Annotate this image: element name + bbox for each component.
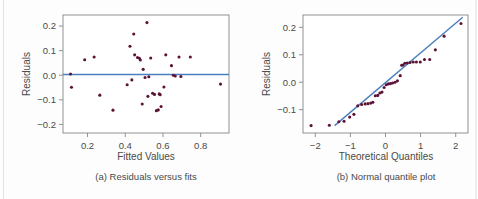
y-tick-label: −0.1	[37, 94, 56, 105]
data-point	[219, 83, 222, 86]
panel-a-x-tick-labels: 0.20.40.60.8	[81, 140, 207, 151]
data-point	[423, 58, 426, 61]
data-point	[328, 124, 331, 127]
y-tick-label: 0.0	[283, 77, 296, 88]
x-tick-label: 0.2	[81, 140, 94, 151]
data-point	[434, 48, 437, 51]
figure-container: 0.20.10.0−0.1−0.2 0.20.40.60.8 Residuals…	[0, 0, 478, 199]
panel-b-svg: 0.20.10.0−0.1 −2−1012 Residuals Theoreti…	[239, 0, 478, 199]
y-tick-label: 0.1	[283, 49, 296, 60]
panel-a-svg: 0.20.10.0−0.1−0.2 0.20.40.60.8 Residuals…	[0, 0, 239, 199]
y-tick-label: 0.2	[43, 20, 56, 31]
panel-b-frame	[303, 15, 468, 133]
panel-b-x-axis-label: Theoretical Quantiles	[339, 151, 434, 162]
panel-b-normal-quantile-plot: 0.20.10.0−0.1 −2−1012 Residuals Theoreti…	[239, 0, 478, 199]
panel-a-residuals-versus-fits: 0.20.10.0−0.1−0.2 0.20.40.60.8 Residuals…	[0, 0, 239, 199]
data-point	[153, 93, 156, 96]
panel-b-y-axis-label: Residuals	[261, 52, 272, 96]
data-point	[146, 95, 149, 98]
data-point	[70, 86, 73, 89]
data-point	[337, 120, 340, 123]
data-point	[164, 53, 167, 56]
data-point	[348, 116, 351, 119]
data-point	[366, 102, 369, 105]
panel-b-caption: (b) Normal quantile plot	[337, 171, 436, 182]
data-point	[415, 60, 418, 63]
data-point	[162, 85, 165, 88]
x-tick-label: 1	[418, 140, 423, 151]
data-point	[360, 103, 363, 106]
x-tick-label: 0.8	[194, 140, 207, 151]
x-tick-label: 2	[453, 140, 458, 151]
x-tick-label: −1	[345, 140, 356, 151]
data-point	[189, 55, 192, 58]
data-point	[177, 55, 180, 58]
data-point	[383, 86, 386, 89]
data-point	[396, 79, 399, 82]
data-point	[412, 60, 415, 63]
data-point	[310, 124, 313, 127]
data-point	[98, 94, 101, 97]
data-point	[399, 74, 402, 77]
data-point	[376, 94, 379, 97]
data-point	[406, 61, 409, 64]
panel-b-y-tick-labels: 0.20.10.0−0.1	[277, 22, 296, 115]
panel-a-caption: (a) Residuals versus fits	[95, 171, 197, 182]
data-point	[144, 76, 147, 79]
data-point	[141, 102, 144, 105]
data-point	[356, 104, 359, 107]
x-tick-label: 0.4	[119, 140, 132, 151]
panel-b-x-tick-labels: −2−1012	[310, 140, 458, 151]
data-point	[157, 108, 160, 111]
data-point	[419, 60, 422, 63]
data-point	[128, 45, 131, 48]
x-tick-label: 0.6	[156, 140, 169, 151]
y-tick-label: −0.2	[37, 119, 56, 130]
data-point	[142, 68, 145, 71]
panel-a-y-tick-labels: 0.20.10.0−0.1−0.2	[37, 20, 56, 129]
data-point	[380, 91, 383, 94]
data-point	[160, 105, 163, 108]
y-tick-label: 0.1	[43, 45, 56, 56]
y-tick-label: −0.1	[277, 104, 296, 115]
panel-a-x-axis-label: Fitted Values	[117, 151, 175, 162]
data-point	[126, 83, 129, 86]
data-point	[93, 55, 96, 58]
data-point	[371, 101, 374, 104]
y-tick-label: 0.0	[43, 70, 56, 81]
data-point	[443, 35, 446, 38]
panel-a-y-axis-label: Residuals	[21, 52, 32, 96]
data-point	[132, 32, 135, 35]
data-point	[139, 58, 142, 61]
x-tick-label: −2	[310, 140, 321, 151]
page-edge-shadow	[475, 0, 477, 199]
data-point	[147, 75, 150, 78]
data-point	[174, 74, 177, 77]
data-point	[459, 22, 462, 25]
data-point	[145, 21, 148, 24]
data-point	[170, 64, 173, 67]
data-point	[130, 78, 133, 81]
data-point	[409, 61, 412, 64]
data-point	[352, 113, 355, 116]
data-point	[159, 93, 162, 96]
x-tick-label: 0	[383, 140, 388, 151]
data-point	[428, 58, 431, 61]
data-point	[69, 72, 72, 75]
data-point	[179, 75, 182, 78]
data-point	[364, 102, 367, 105]
data-point	[133, 53, 136, 56]
data-point	[149, 56, 152, 59]
data-point	[83, 58, 86, 61]
data-point	[111, 109, 114, 112]
y-tick-label: 0.2	[283, 22, 296, 33]
data-point	[343, 120, 346, 123]
